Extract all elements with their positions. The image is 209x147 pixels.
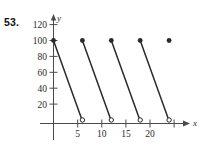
closed-point: [80, 38, 85, 43]
x-tick-label: 15: [121, 129, 131, 139]
data-segments: [54, 41, 170, 122]
y-tick-labels: 20 40 60 80 100 120: [33, 20, 48, 110]
y-axis: [51, 14, 56, 140]
y-tick-label: 100: [33, 36, 48, 46]
y-tick-label: 120: [33, 20, 48, 30]
y-tick-label: 20: [38, 100, 48, 110]
y-axis-label: y: [56, 13, 61, 23]
x-tick-labels: 5 10 15 20: [75, 129, 155, 139]
x-axis-label: x: [192, 118, 197, 128]
segment-1: [54, 41, 83, 122]
closed-point: [51, 38, 56, 43]
closed-point: [138, 38, 143, 43]
closed-point: [167, 38, 172, 43]
x-tick-label: 5: [75, 129, 80, 139]
x-tick-label: 20: [145, 129, 155, 139]
closed-point: [109, 38, 114, 43]
closed-endpoint-markers: [51, 38, 171, 43]
segment-4: [140, 41, 169, 122]
y-tick-label: 60: [38, 68, 48, 78]
open-point: [138, 118, 142, 122]
segment-3: [111, 41, 140, 122]
segment-2: [82, 41, 111, 122]
y-tick-label: 80: [38, 52, 48, 62]
open-point: [109, 118, 113, 122]
open-point: [167, 118, 171, 122]
x-tick-label: 10: [97, 129, 107, 139]
graph-canvas: y x 20 40 60 80 100 120: [0, 0, 209, 147]
open-point: [80, 118, 84, 122]
y-tick-label: 40: [38, 84, 48, 94]
